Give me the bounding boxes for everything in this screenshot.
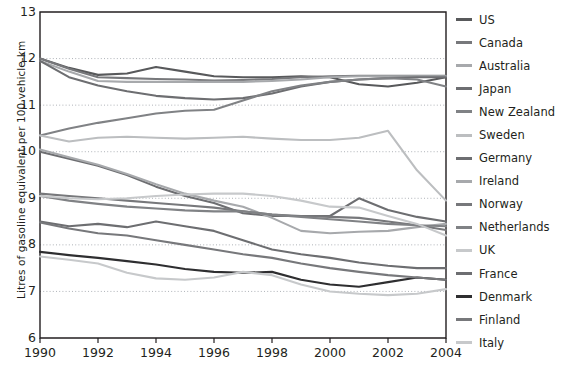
legend-item-label: Germany [479, 151, 532, 165]
legend-item-label: Canada [479, 36, 523, 50]
legend-swatch-icon [456, 110, 472, 113]
legend-item-italy[interactable]: Italy [456, 331, 569, 354]
y-axis-tick-label: 12 [8, 52, 36, 65]
series-line-denmark [40, 252, 446, 287]
series-line-uk [40, 194, 446, 236]
legend-item-finland[interactable]: Finland [456, 308, 569, 331]
x-axis-tick-label: 1992 [73, 347, 123, 360]
legend-swatch-icon [456, 87, 472, 90]
y-axis-tick-label: 13 [8, 6, 36, 19]
legend-swatch-icon [456, 295, 472, 298]
legend-item-label: UK [479, 243, 495, 257]
legend-item-ireland[interactable]: Ireland [456, 170, 569, 193]
legend-item-label: Finland [479, 313, 520, 327]
legend-item-label: Sweden [479, 128, 525, 142]
legend-item-france[interactable]: France [456, 262, 569, 285]
legend-item-label: Netherlands [479, 220, 550, 234]
legend-item-canada[interactable]: Canada [456, 31, 569, 54]
legend-swatch-icon [456, 341, 472, 344]
x-axis-tick-label: 2000 [305, 347, 355, 360]
legend-swatch-icon [456, 249, 472, 252]
legend-item-label: US [479, 13, 495, 27]
legend-item-label: New Zealand [479, 105, 555, 119]
y-axis-tick-labels: 131211109876 [0, 0, 36, 370]
x-axis-tick-label: 1996 [189, 347, 239, 360]
y-axis-tick-label: 9 [8, 192, 36, 205]
legend-swatch-icon [456, 41, 472, 44]
legend-item-new-zealand[interactable]: New Zealand [456, 100, 569, 123]
legend-item-netherlands[interactable]: Netherlands [456, 216, 569, 239]
x-axis-tick-label: 1994 [131, 347, 181, 360]
y-axis-tick-label: 11 [8, 99, 36, 112]
legend-swatch-icon [456, 18, 472, 21]
y-axis-tick-label: 10 [8, 145, 36, 158]
y-axis-tick-label: 7 [8, 285, 36, 298]
legend-item-label: France [479, 267, 518, 281]
legend-swatch-icon [456, 157, 472, 160]
x-axis-tick-label: 2002 [363, 347, 413, 360]
legend-item-japan[interactable]: Japan [456, 77, 569, 100]
legend-item-denmark[interactable]: Denmark [456, 285, 569, 308]
legend-swatch-icon [456, 226, 472, 229]
legend-item-label: Australia [479, 59, 530, 73]
legend-swatch-icon [456, 134, 472, 137]
x-axis-tick-label: 1998 [247, 347, 297, 360]
legend-item-label: Ireland [479, 174, 519, 188]
legend-swatch-icon [456, 203, 472, 206]
legend-swatch-icon [456, 64, 472, 67]
legend-swatch-icon [456, 180, 472, 183]
legend-item-uk[interactable]: UK [456, 239, 569, 262]
legend-item-germany[interactable]: Germany [456, 147, 569, 170]
legend: USCanadaAustraliaJapanNew ZealandSwedenG… [456, 8, 569, 354]
legend-item-label: Denmark [479, 290, 532, 304]
legend-item-us[interactable]: US [456, 8, 569, 31]
legend-swatch-icon [456, 318, 472, 321]
y-axis-tick-label: 6 [8, 332, 36, 345]
x-axis-tick-label: 1990 [15, 347, 65, 360]
plot-frame [40, 12, 446, 338]
line-chart: Litres of gasoline equivalent per 100 ve… [0, 0, 569, 370]
legend-item-sweden[interactable]: Sweden [456, 123, 569, 146]
legend-item-norway[interactable]: Norway [456, 193, 569, 216]
legend-item-australia[interactable]: Australia [456, 54, 569, 77]
legend-swatch-icon [456, 272, 472, 275]
legend-item-label: Japan [479, 82, 511, 96]
y-axis-tick-label: 8 [8, 238, 36, 251]
legend-item-label: Italy [479, 336, 504, 350]
legend-item-label: Norway [479, 197, 523, 211]
